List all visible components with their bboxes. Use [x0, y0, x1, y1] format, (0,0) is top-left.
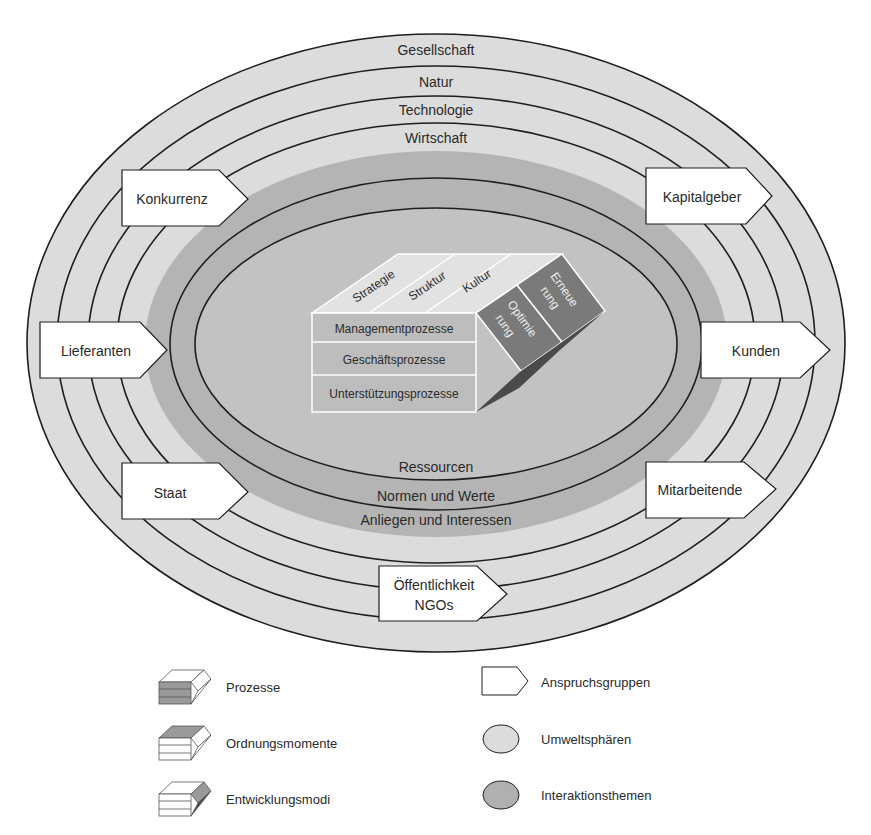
legend-label-ordnungsmomente: Ordnungsmomente: [226, 736, 337, 751]
label-kunden: Kunden: [732, 343, 780, 359]
legend-label-entwicklungsmodi: Entwicklungsmodi: [226, 792, 330, 807]
label-ngos: NGOs: [415, 597, 454, 613]
label-unterstuetzungsprozesse: Unterstützungsprozesse: [329, 387, 459, 401]
label-managementprozesse: Managementprozesse: [335, 322, 454, 336]
legend-interaktionsthemen-icon: [483, 781, 519, 809]
legend-label-umweltsphaeren: Umweltsphären: [541, 732, 631, 747]
label-oeffentlichkeit: Öffentlichkeit: [394, 576, 475, 593]
label-gesellschaft: Gesellschaft: [397, 42, 474, 58]
legend-entwicklungsmodi-icon: [159, 782, 211, 816]
legend-label-prozesse: Prozesse: [226, 680, 280, 695]
legend-label-interaktionsthemen: Interaktionsthemen: [541, 788, 652, 803]
label-ressourcen: Ressourcen: [399, 459, 474, 475]
label-natur: Natur: [419, 74, 454, 90]
label-mitarbeitende: Mitarbeitende: [658, 482, 743, 498]
legend-prozesse-icon: [159, 670, 211, 704]
st-galler-management-model: Gesellschaft Natur Technologie Wirtschaf…: [0, 0, 871, 835]
legend-ordnungsmomente-icon: [159, 726, 211, 760]
legend-anspruchsgruppen-icon: [482, 667, 528, 695]
label-technologie: Technologie: [399, 102, 474, 118]
label-normen-und-werte: Normen und Werte: [377, 488, 495, 504]
label-wirtschaft: Wirtschaft: [405, 130, 467, 146]
label-anliegen-und-interessen: Anliegen und Interessen: [361, 512, 512, 528]
label-staat: Staat: [154, 485, 187, 501]
label-lieferanten: Lieferanten: [61, 343, 131, 359]
label-konkurrenz: Konkurrenz: [136, 191, 208, 207]
label-kapitalgeber: Kapitalgeber: [663, 189, 742, 205]
legend-umweltsphaeren-icon: [483, 725, 519, 753]
legend-label-anspruchsgruppen: Anspruchsgruppen: [541, 675, 650, 690]
label-geschaeftsprozesse: Geschäftsprozesse: [343, 353, 446, 367]
